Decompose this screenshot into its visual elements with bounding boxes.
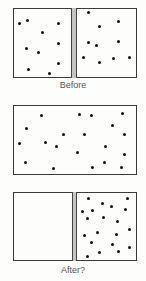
gas-particle	[128, 56, 131, 59]
gas-particle	[25, 47, 28, 50]
gas-particle	[91, 209, 94, 212]
gas-particle	[123, 133, 126, 136]
gas-particle	[18, 22, 21, 25]
gas-particle	[87, 197, 90, 200]
gas-particle	[103, 161, 106, 164]
gas-particle	[86, 255, 89, 258]
gas-particle	[82, 56, 85, 59]
gas-particle	[52, 167, 55, 170]
gas-particle	[111, 243, 114, 246]
gas-particle	[26, 19, 29, 22]
gas-particle	[62, 133, 65, 136]
gas-particle	[48, 72, 51, 75]
gas-particle	[55, 145, 58, 148]
gas-particle	[91, 166, 94, 169]
gas-particle	[25, 127, 28, 130]
before-partition	[71, 8, 77, 78]
gas-particle	[123, 153, 126, 156]
before-caption: Before	[0, 80, 146, 90]
gas-particle	[78, 113, 81, 116]
gas-particle	[128, 246, 131, 249]
gas-particle	[90, 114, 93, 117]
gas-particle	[117, 40, 120, 43]
gas-particle	[101, 202, 104, 205]
gas-particle	[81, 210, 84, 213]
gas-particle	[24, 161, 27, 164]
gas-particle	[87, 41, 90, 44]
gas-particle	[116, 220, 119, 223]
gas-particle	[121, 112, 124, 115]
gas-particle	[44, 141, 47, 144]
after-partition	[72, 192, 77, 261]
gas-particle	[83, 133, 86, 136]
gas-particle	[120, 166, 123, 169]
gas-particle	[98, 25, 101, 28]
gas-particle	[110, 205, 113, 208]
gas-particle	[95, 44, 98, 47]
gas-particle	[104, 145, 107, 148]
gas-particle	[98, 61, 101, 64]
gas-particle	[86, 217, 89, 220]
after-caption: After?	[0, 265, 146, 275]
gas-particle	[117, 250, 120, 253]
gas-particle	[57, 22, 60, 25]
middle-panel	[13, 105, 137, 175]
gas-particle	[57, 42, 60, 45]
gas-particle	[124, 208, 127, 211]
gas-particle	[128, 228, 131, 231]
gas-particle	[87, 11, 90, 14]
gas-particle	[40, 114, 43, 117]
gas-particle	[96, 231, 99, 234]
gas-particle	[18, 142, 21, 145]
gas-particle	[76, 151, 79, 154]
gas-particle	[115, 233, 118, 236]
gas-particle	[41, 31, 44, 34]
gas-particle	[98, 251, 101, 254]
gas-particle	[102, 216, 105, 219]
gas-particle	[111, 124, 114, 127]
gas-particle	[126, 197, 129, 200]
gas-particle	[83, 234, 86, 237]
gas-particle	[57, 62, 60, 65]
gas-particle	[90, 241, 93, 244]
gas-particle	[117, 20, 120, 23]
gas-particle	[37, 51, 40, 54]
gas-particle	[27, 68, 30, 71]
gas-particle	[112, 57, 115, 60]
